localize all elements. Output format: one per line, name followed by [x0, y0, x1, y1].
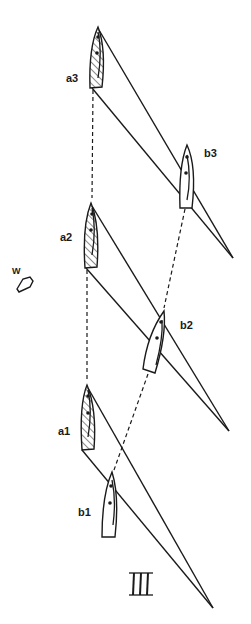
wake-b2-b1: [114, 374, 148, 470]
boat-b2: [143, 311, 165, 373]
wind-indicator: W: [12, 266, 33, 292]
label-b1: b1: [78, 506, 91, 518]
boat-a1: [81, 385, 95, 450]
shadow-a3-stern: [92, 88, 233, 258]
boat-b1: [102, 472, 117, 537]
label-b3: b3: [204, 147, 217, 159]
panel-numeral: III: [129, 573, 153, 595]
wind-label: W: [12, 266, 21, 276]
shadow-a3-bow: [99, 30, 233, 258]
label-a1: a1: [58, 425, 70, 437]
label-b2: b2: [180, 319, 193, 331]
wind-arrow-icon: [17, 277, 33, 292]
sailing-tactics-diagram: a3 b3 a2 b2 a1 b1 W: [0, 0, 251, 624]
wake-b3-b2: [164, 209, 185, 308]
label-a3: a3: [66, 72, 78, 84]
wake-a3-a2: [92, 90, 93, 198]
boat-a3: [90, 27, 104, 88]
label-a2: a2: [60, 231, 72, 243]
boat-b3: [180, 145, 194, 208]
